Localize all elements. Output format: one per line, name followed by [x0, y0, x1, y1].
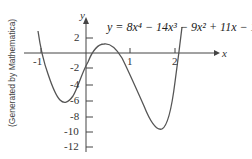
x-tick-1: 1: [127, 55, 133, 67]
y-axis-label: y: [80, 9, 85, 21]
x-axis-arrow-icon: [214, 50, 220, 56]
y-tick-neg10: -10: [64, 125, 79, 137]
y-tick-neg6: -6: [70, 94, 79, 106]
x-axis-label: x: [222, 47, 227, 59]
y-tick-2: 2: [74, 31, 80, 43]
equation-label: y = 8x⁴ − 14x³ − 9x² + 11x − 1: [107, 20, 252, 35]
y-tick-neg12: -12: [64, 140, 79, 152]
x-tick-2: 2: [172, 55, 178, 67]
y-tick-neg8: -8: [70, 110, 79, 122]
generated-by-note: (Generated by Mathematica): [7, 27, 17, 127]
y-tick-neg4: -4: [70, 78, 79, 90]
x-tick-neg1: -1: [33, 55, 42, 67]
y-tick-neg2: -2: [70, 61, 79, 73]
function-curve: [38, 27, 182, 129]
